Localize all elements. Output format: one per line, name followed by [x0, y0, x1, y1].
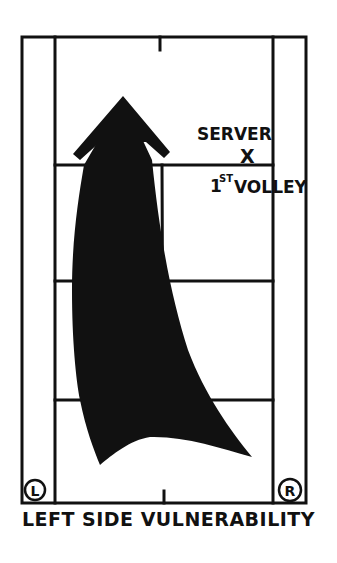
server-label: SERVER: [197, 124, 272, 144]
right-marker-letter: R: [285, 483, 296, 499]
left-corner-marker: L: [25, 480, 45, 500]
diagram-caption: LEFT SIDE VULNERABILITY: [0, 508, 337, 530]
right-corner-marker: R: [279, 479, 301, 501]
court-diagram: SERVER X 1 ST VOLLEY L R: [0, 0, 337, 563]
server-position-marker: X: [240, 145, 255, 167]
first-volley-word: VOLLEY: [234, 177, 308, 197]
first-volley-suffix: ST: [219, 173, 233, 184]
left-marker-letter: L: [31, 483, 40, 499]
